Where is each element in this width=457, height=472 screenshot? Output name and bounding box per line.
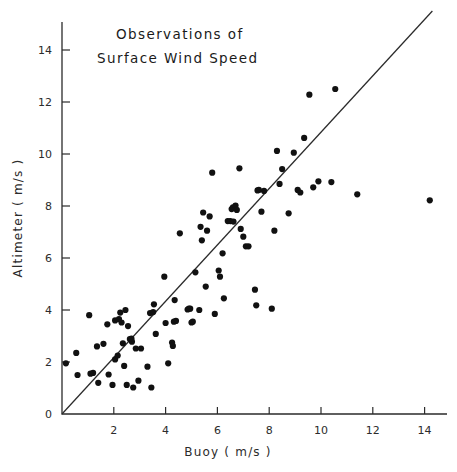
data-point	[115, 352, 121, 358]
data-point	[200, 209, 206, 215]
x-tick-label-4: 4	[162, 424, 169, 437]
data-point	[427, 197, 433, 203]
x-tick-label-6: 6	[214, 424, 221, 437]
data-point	[87, 371, 93, 377]
x-tick-label-2: 2	[110, 424, 117, 437]
data-point	[122, 307, 128, 313]
data-point	[274, 148, 280, 154]
data-point	[177, 230, 183, 236]
data-point	[120, 340, 126, 346]
data-point	[151, 301, 157, 307]
data-point	[291, 150, 297, 156]
data-point	[148, 384, 154, 390]
y-axis-ticks	[62, 50, 70, 362]
data-point	[124, 382, 130, 388]
data-point	[252, 287, 258, 293]
data-point	[150, 309, 156, 315]
data-point	[221, 295, 227, 301]
data-point	[269, 306, 275, 312]
data-point	[271, 228, 277, 234]
data-point	[144, 364, 150, 370]
data-point	[163, 320, 169, 326]
y-tick-label-12: 12	[38, 96, 52, 109]
data-point	[261, 188, 267, 194]
data-point	[190, 319, 196, 325]
data-point	[109, 382, 115, 388]
data-point	[238, 226, 244, 232]
data-point	[230, 219, 236, 225]
data-point	[297, 189, 303, 195]
data-point	[354, 191, 360, 197]
x-axis-title: Buoy ( m/s )	[184, 445, 271, 459]
data-point	[73, 350, 79, 356]
data-point	[286, 210, 292, 216]
data-point	[118, 319, 124, 325]
data-point	[310, 184, 316, 190]
data-point	[279, 166, 285, 172]
data-point	[219, 250, 225, 256]
data-point	[135, 378, 141, 384]
data-point	[315, 178, 321, 184]
data-point	[172, 297, 178, 303]
y-tick-label-2: 2	[45, 356, 52, 369]
data-point	[258, 209, 264, 215]
data-point	[209, 170, 215, 176]
x-axis-tick-labels: 2468101214	[110, 424, 431, 437]
data-point	[170, 343, 176, 349]
data-point	[236, 165, 242, 171]
data-point	[245, 243, 251, 249]
data-point	[196, 307, 202, 313]
y-tick-label-4: 4	[45, 304, 52, 317]
chart-title-line-1: Observations of	[116, 26, 244, 42]
y-axis-title: Altimeter ( m/s )	[11, 159, 25, 278]
y-tick-label-14: 14	[38, 44, 52, 57]
scatter-points	[63, 86, 433, 391]
data-point	[173, 318, 179, 324]
data-point	[203, 284, 209, 290]
data-point	[161, 274, 167, 280]
data-point	[128, 336, 134, 342]
data-point	[192, 269, 198, 275]
data-point	[212, 311, 218, 317]
data-point	[130, 384, 136, 390]
plot-canvas: Observations of Surface Wind Speed 24681…	[0, 0, 457, 472]
data-point	[74, 372, 80, 378]
data-point	[276, 181, 282, 187]
data-point	[100, 341, 106, 347]
x-tick-label-10: 10	[314, 424, 328, 437]
data-point	[121, 363, 127, 369]
data-point	[86, 312, 92, 318]
data-point	[186, 306, 192, 312]
data-point	[306, 92, 312, 98]
data-point	[138, 345, 144, 351]
x-tick-label-8: 8	[266, 424, 273, 437]
data-point	[153, 331, 159, 337]
scatter-plot-figure: Observations of Surface Wind Speed 24681…	[0, 0, 457, 472]
data-point	[95, 380, 101, 386]
data-point	[125, 323, 131, 329]
y-tick-label-8: 8	[45, 200, 52, 213]
y-tick-label-10: 10	[38, 148, 52, 161]
data-point	[240, 234, 246, 240]
data-point	[217, 274, 223, 280]
chart-title-line-2: Surface Wind Speed	[97, 50, 258, 66]
data-point	[253, 302, 259, 308]
data-point	[216, 267, 222, 273]
data-point	[204, 228, 210, 234]
y-tick-label-6: 6	[45, 252, 52, 265]
y-axis-tick-labels: 02468101214	[38, 44, 52, 421]
data-point	[165, 360, 171, 366]
data-point	[199, 237, 205, 243]
data-point	[207, 213, 213, 219]
y-tick-label-0: 0	[45, 408, 52, 421]
data-point	[106, 371, 112, 377]
data-point	[301, 135, 307, 141]
data-point	[234, 207, 240, 213]
data-point	[63, 360, 69, 366]
x-axis-ticks	[114, 407, 425, 414]
data-point	[104, 321, 110, 327]
x-tick-label-14: 14	[418, 424, 432, 437]
data-point	[328, 179, 334, 185]
data-point	[94, 343, 100, 349]
data-point	[256, 187, 262, 193]
